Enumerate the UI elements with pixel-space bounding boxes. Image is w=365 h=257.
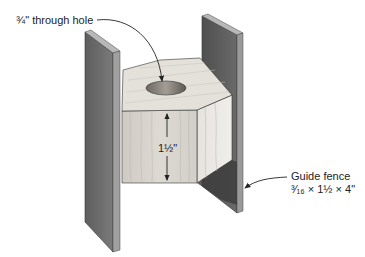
through-hole xyxy=(146,81,186,95)
hole-callout-label: ¾" through hole xyxy=(16,14,93,26)
fence-callout-title: Guide fence xyxy=(291,170,350,182)
fence-callout-arrow xyxy=(245,177,287,188)
fence-callout-dimensions: ³⁄₁₆ × 1½ × 4" xyxy=(291,183,355,195)
left-guide-fence xyxy=(85,30,120,252)
fence-callout-label: Guide fence ³⁄₁₆ × 1½ × 4" xyxy=(291,170,355,195)
jig-diagram xyxy=(0,0,365,257)
height-dimension-label: 1½" xyxy=(158,142,177,154)
